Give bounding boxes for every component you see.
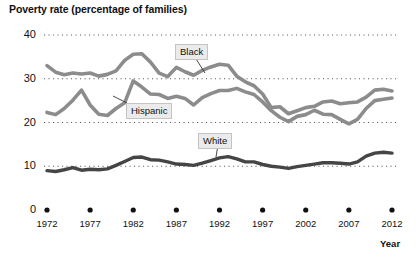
x-axis-tick-dots [44,207,394,212]
series-label-hispanic: Hispanic [126,103,172,119]
x-axis-tick-label: 1997 [243,218,283,229]
x-axis-tick-label: 1972 [27,218,67,229]
x-axis-tick-label: 1992 [200,218,240,229]
x-axis-tick-label: 1982 [113,218,153,229]
series-line-black [47,54,392,114]
x-axis-title: Year [380,238,400,249]
series-label-black: Black [175,44,208,60]
x-axis-tick-dot [44,207,49,212]
x-axis-tick-dot [88,207,93,212]
x-axis-tick-label: 2007 [329,218,369,229]
y-axis-tick-label: 10 [8,159,36,171]
x-axis-tick-label: 1977 [70,218,110,229]
y-axis-tick-label: 30 [8,72,36,84]
x-axis-tick-label: 2002 [286,218,326,229]
x-axis-tick-dot [260,207,265,212]
x-axis-tick-label: 2012 [372,218,412,229]
x-axis-tick-dot [217,207,222,212]
data-series-lines [47,54,392,172]
x-axis-tick-dot [303,207,308,212]
y-axis-tick-label: 20 [8,116,36,128]
x-axis-tick-dot [174,207,179,212]
x-axis-tick-dot [131,207,136,212]
x-axis-tick-label: 1987 [156,218,196,229]
series-line-white [47,152,392,171]
x-axis-tick-dot [346,207,351,212]
y-axis-tick-label: 40 [8,28,36,40]
series-label-white: White [198,133,232,149]
y-axis-tick-label: 0 [8,203,36,215]
poverty-rate-chart: Poverty rate (percentage of families) 40… [0,0,416,258]
x-axis-tick-dot [389,207,394,212]
